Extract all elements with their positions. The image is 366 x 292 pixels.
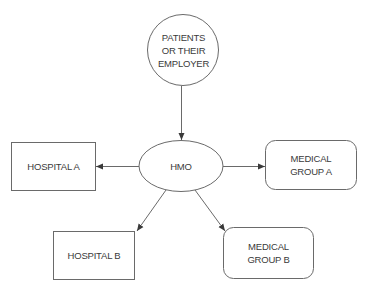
medical-group-b-label-line-1: MEDICAL <box>248 240 289 253</box>
patients-label-line-3: EMPLOYER <box>158 57 209 70</box>
hospital-b-node-label: HOSPITAL B <box>53 231 135 280</box>
medical-group-a-label-line-1: MEDICAL <box>291 152 332 165</box>
patients-node-label: PATIENTS OR THEIR EMPLOYER <box>148 15 219 86</box>
edge-hmo-to-medical-group-b <box>195 190 225 231</box>
hospital-b-label-line-1: HOSPITAL B <box>68 249 121 262</box>
patients-label-line-2: OR THEIR <box>162 44 206 57</box>
hmo-label-line-1: HMO <box>170 160 192 173</box>
medical-group-b-label-line-2: GROUP B <box>247 253 289 266</box>
hmo-node-label: HMO <box>139 141 223 192</box>
medical-group-a-label-line-2: GROUP A <box>290 165 332 178</box>
hospital-a-label-line-1: HOSPITAL A <box>27 160 79 173</box>
hospital-a-node-label: HOSPITAL A <box>11 142 96 191</box>
edge-hmo-to-hospital-b <box>137 190 166 231</box>
medical-group-b-node-label: MEDICAL GROUP B <box>223 227 314 279</box>
medical-group-a-node-label: MEDICAL GROUP A <box>265 140 357 190</box>
patients-label-line-1: PATIENTS <box>162 31 205 44</box>
